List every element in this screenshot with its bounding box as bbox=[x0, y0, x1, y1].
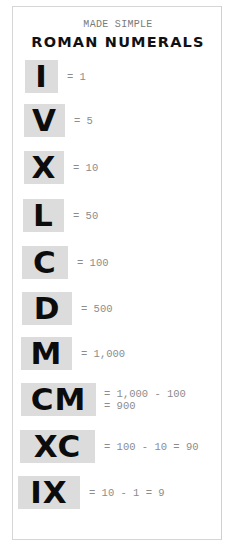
numeral-box: XC bbox=[20, 430, 95, 463]
numeral-equation: = 100 bbox=[77, 257, 109, 269]
subtitle: MADE SIMPLE bbox=[13, 19, 223, 30]
equation-line-2: = 900 bbox=[104, 400, 186, 412]
numeral-box: CM bbox=[21, 383, 96, 416]
numeral-equation: = 1 bbox=[67, 71, 86, 83]
numeral-box: V bbox=[24, 104, 65, 137]
numeral-box: X bbox=[24, 151, 64, 184]
numeral-row-ix: IX = 10 - 1 = 9 bbox=[18, 476, 165, 509]
page-title: ROMAN NUMERALS bbox=[13, 34, 223, 50]
numeral-box: D bbox=[22, 292, 72, 325]
numeral-equation: = 100 - 10 = 90 bbox=[104, 441, 199, 453]
numeral-box: I bbox=[25, 60, 58, 93]
numeral-box: L bbox=[23, 199, 64, 232]
numeral-equation: = 500 bbox=[81, 303, 113, 315]
numeral-row-c: C = 100 bbox=[22, 246, 109, 279]
numeral-row-v: V = 5 bbox=[24, 104, 93, 137]
equation-line-1: = 1,000 - 100 bbox=[104, 388, 186, 400]
numeral-equation: = 5 bbox=[74, 115, 93, 127]
numeral-equation: = 10 bbox=[73, 162, 98, 174]
numeral-box: M bbox=[21, 337, 72, 370]
numeral-row-xc: XC = 100 - 10 = 90 bbox=[20, 430, 199, 463]
numeral-equation: = 1,000 bbox=[81, 348, 125, 360]
numeral-row-m: M = 1,000 bbox=[21, 337, 125, 370]
numeral-row-d: D = 500 bbox=[22, 292, 113, 325]
numeral-equation: = 10 - 1 = 9 bbox=[89, 487, 165, 499]
numeral-equation: = 50 bbox=[73, 210, 98, 222]
numeral-row-l: L = 50 bbox=[23, 199, 98, 232]
numeral-row-i: I = 1 bbox=[25, 60, 86, 93]
numeral-row-cm: CM = 1,000 - 100 = 900 bbox=[21, 383, 186, 416]
numeral-equation: = 1,000 - 100 = 900 bbox=[104, 388, 186, 412]
numeral-box: IX bbox=[18, 476, 80, 509]
numeral-box: C bbox=[22, 246, 68, 279]
numeral-row-x: X = 10 bbox=[24, 151, 98, 184]
